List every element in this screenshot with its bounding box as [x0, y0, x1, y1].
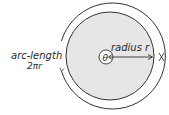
- arc-arrowhead: [60, 68, 64, 72]
- circle-diagram: θ radius r arc-length 2πr: [0, 0, 169, 115]
- arc-formula-label: 2πr: [27, 61, 43, 71]
- radius-label: radius r: [111, 42, 150, 53]
- arc-length-label: arc-length: [11, 50, 62, 61]
- angle-label: θ: [103, 53, 109, 63]
- cross-mark-icon: [159, 53, 164, 61]
